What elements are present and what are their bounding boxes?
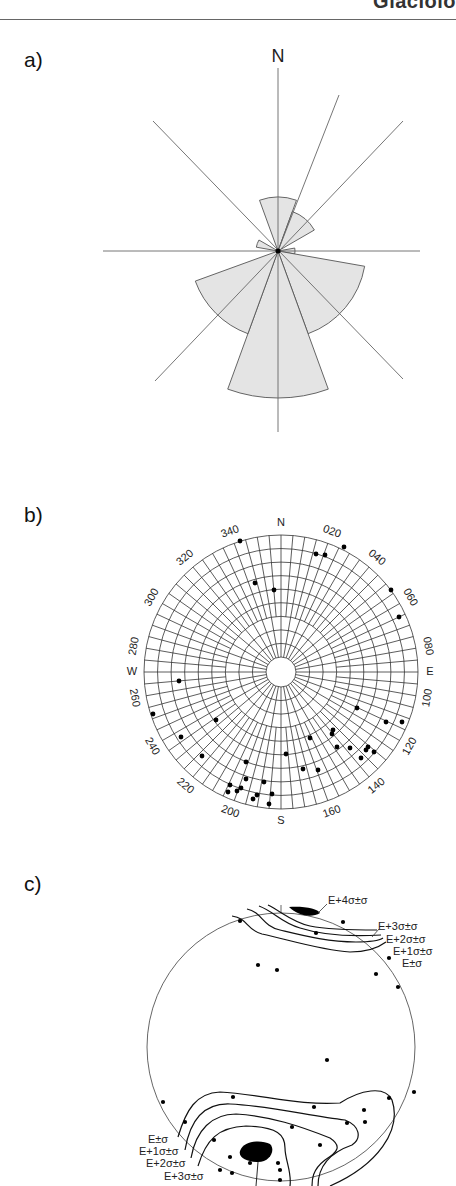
contour-label-bottom-3: E+3σ±σ bbox=[164, 1170, 204, 1182]
data-point bbox=[362, 1108, 366, 1112]
contour-stereonet: E+4σ±σ E+3σ±σ E+2σ±σ E+1σ±σ E±σ E±σ E+1σ… bbox=[0, 0, 456, 1186]
data-point bbox=[183, 1120, 187, 1124]
data-point bbox=[248, 1161, 252, 1165]
data-point bbox=[238, 919, 242, 923]
contour-label-top-0: E±σ bbox=[402, 957, 422, 969]
data-point bbox=[363, 1120, 367, 1124]
data-point bbox=[314, 931, 318, 935]
contour-label-bottom-1: E+1σ±σ bbox=[139, 1145, 179, 1157]
data-point bbox=[290, 1125, 294, 1129]
data-point bbox=[396, 985, 400, 989]
data-point bbox=[341, 920, 345, 924]
data-point bbox=[256, 963, 260, 967]
data-point bbox=[228, 1155, 232, 1159]
contour-lines-bottom bbox=[178, 1091, 394, 1186]
data-point bbox=[278, 1168, 282, 1172]
data-point bbox=[374, 972, 378, 976]
data-point bbox=[276, 1161, 280, 1165]
contour-max-top bbox=[289, 907, 320, 916]
contour-label-top-2: E+2σ±σ bbox=[386, 933, 426, 945]
contour-label-bottom-2: E+2σ±σ bbox=[146, 1157, 186, 1169]
data-point bbox=[387, 1096, 391, 1100]
data-point bbox=[275, 968, 279, 972]
contour-label-top-4: E+4σ±σ bbox=[328, 894, 368, 906]
data-point bbox=[312, 1105, 316, 1109]
data-point bbox=[230, 1171, 234, 1175]
data-point bbox=[387, 956, 391, 960]
data-point bbox=[161, 1100, 165, 1104]
data-point bbox=[325, 1058, 329, 1062]
data-point bbox=[212, 1138, 216, 1142]
data-point bbox=[412, 1090, 416, 1094]
contour-data-points bbox=[161, 919, 416, 1182]
data-point bbox=[218, 1168, 222, 1172]
contour-max-bottom bbox=[240, 1142, 273, 1162]
contour-max-leader bbox=[256, 1162, 258, 1186]
data-point bbox=[278, 1178, 282, 1182]
data-point bbox=[318, 1143, 322, 1147]
data-point bbox=[345, 1121, 349, 1125]
contour-label-bottom-0: E±σ bbox=[148, 1133, 168, 1145]
contour-label-top-3: E+3σ±σ bbox=[378, 920, 418, 932]
data-point bbox=[231, 1095, 235, 1099]
contour-label-top-1: E+1σ±σ bbox=[393, 945, 433, 957]
